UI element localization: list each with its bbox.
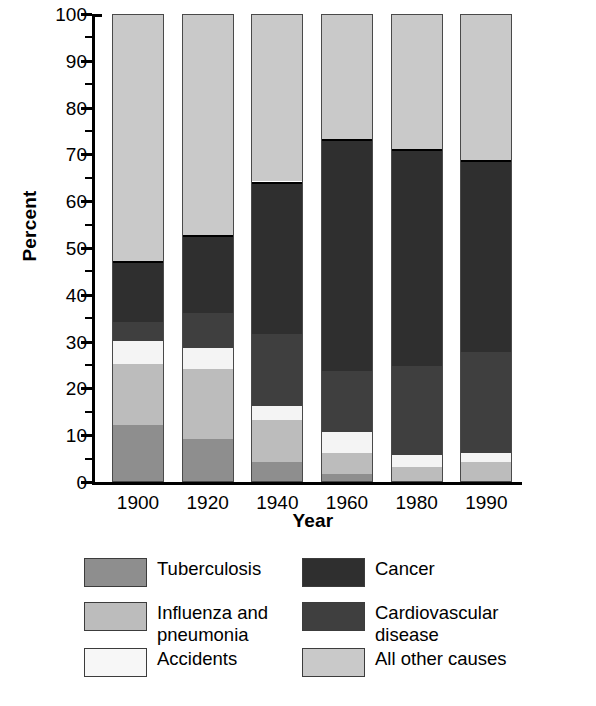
legend-item-influenza-and-pneumonia[interactable]: Influenza and pneumonia xyxy=(84,600,302,646)
y-tick-minor xyxy=(85,270,92,272)
legend-label: All other causes xyxy=(375,646,507,670)
y-tick-label: 70 xyxy=(17,145,87,164)
bar-segment-accidents xyxy=(252,406,302,420)
y-axis-spine xyxy=(92,14,95,483)
plot-area: 0102030405060708090100 19001920194019601… xyxy=(104,14,522,482)
bar-segment-cancer xyxy=(461,160,511,352)
y-tick-label: 60 xyxy=(17,192,87,211)
bar-segment-all-other-causes xyxy=(252,14,302,181)
bar-segment-all-other-causes xyxy=(322,14,372,139)
bar-segment-cancer xyxy=(322,139,372,371)
bar-segment-accidents xyxy=(322,432,372,453)
bar-segment-accidents xyxy=(392,455,442,467)
y-tick-minor xyxy=(85,177,92,179)
legend-label: Tuberculosis xyxy=(157,556,261,580)
bar-segment-cardiovascular-disease xyxy=(322,371,372,432)
y-tick-label: 30 xyxy=(17,332,87,351)
legend-label: Influenza and pneumonia xyxy=(157,600,302,646)
bar-segment-tuberculosis xyxy=(252,462,302,481)
bar-segment-influenza-and-pneumonia xyxy=(252,420,302,462)
y-tick-label: 40 xyxy=(17,285,87,304)
legend-item-all-other-causes[interactable]: All other causes xyxy=(302,646,554,690)
legend-item-cancer[interactable]: Cancer xyxy=(302,556,554,600)
y-tick-minor xyxy=(85,36,92,38)
bar-segment-cardiovascular-disease xyxy=(461,352,511,453)
bar-segment-tuberculosis xyxy=(322,474,372,481)
bar-segment-all-other-causes xyxy=(461,14,511,160)
y-tick-label: 20 xyxy=(17,379,87,398)
y-tick-minor xyxy=(85,317,92,319)
legend-swatch-icon xyxy=(302,648,365,677)
chart-legend: TuberculosisCancerInfluenza and pneumoni… xyxy=(84,556,554,690)
legend-swatch-icon xyxy=(84,648,147,677)
legend-item-accidents[interactable]: Accidents xyxy=(84,646,302,690)
bar-segment-tuberculosis xyxy=(113,425,163,481)
bar-segment-all-other-causes xyxy=(113,14,163,261)
bar-segment-influenza-and-pneumonia xyxy=(392,467,442,481)
bar-segment-influenza-and-pneumonia xyxy=(113,364,163,425)
y-tick-minor xyxy=(85,411,92,413)
legend-swatch-icon xyxy=(84,602,147,631)
bar-segment-tuberculosis xyxy=(183,439,233,481)
y-tick-minor xyxy=(85,83,92,85)
legend-label: Cancer xyxy=(375,556,435,580)
y-tick-label: 80 xyxy=(17,98,87,117)
stacked-bar-chart: Percent 0102030405060708090100 190019201… xyxy=(0,0,596,706)
bar-1960 xyxy=(321,14,373,482)
y-tick-minor xyxy=(85,458,92,460)
bar-segment-accidents xyxy=(461,453,511,462)
bar-segment-influenza-and-pneumonia xyxy=(322,453,372,474)
x-axis-title: Year xyxy=(104,510,522,532)
bar-1990 xyxy=(460,14,512,482)
y-tick-label: 0 xyxy=(17,473,87,492)
legend-item-tuberculosis[interactable]: Tuberculosis xyxy=(84,556,302,600)
bar-1940 xyxy=(251,14,303,482)
bar-segment-cancer xyxy=(252,182,302,334)
bar-segment-accidents xyxy=(113,341,163,364)
legend-label: Cardiovascular disease xyxy=(375,600,554,646)
bar-1900 xyxy=(112,14,164,482)
bar-segment-cardiovascular-disease xyxy=(252,334,302,407)
bar-1920 xyxy=(182,14,234,482)
y-tick-label: 50 xyxy=(17,239,87,258)
y-tick-minor xyxy=(85,364,92,366)
bar-segment-cancer xyxy=(113,261,163,322)
y-tick-minor xyxy=(85,130,92,132)
bar-1980 xyxy=(391,14,443,482)
y-tick-minor xyxy=(85,224,92,226)
bar-segment-accidents xyxy=(183,348,233,369)
y-tick-label: 90 xyxy=(17,51,87,70)
bar-segment-influenza-and-pneumonia xyxy=(183,369,233,439)
legend-swatch-icon xyxy=(302,602,365,631)
bar-segment-cardiovascular-disease xyxy=(392,366,442,455)
bar-segment-influenza-and-pneumonia xyxy=(461,462,511,481)
y-tick-label: 10 xyxy=(17,426,87,445)
bar-segment-cardiovascular-disease xyxy=(113,322,163,341)
y-axis-top-cap xyxy=(92,14,102,17)
legend-swatch-icon xyxy=(302,558,365,587)
legend-item-cardiovascular-disease[interactable]: Cardiovascular disease xyxy=(302,600,554,646)
y-tick-label: 100 xyxy=(17,5,87,24)
legend-label: Accidents xyxy=(157,646,237,670)
bar-segment-cancer xyxy=(392,149,442,367)
legend-swatch-icon xyxy=(84,558,147,587)
bar-segment-all-other-causes xyxy=(183,14,233,235)
bar-segment-all-other-causes xyxy=(392,14,442,149)
x-axis-spine xyxy=(92,482,522,485)
bar-segment-cancer xyxy=(183,235,233,312)
bar-segment-cardiovascular-disease xyxy=(183,313,233,348)
y-axis-title: Percent xyxy=(19,166,41,286)
